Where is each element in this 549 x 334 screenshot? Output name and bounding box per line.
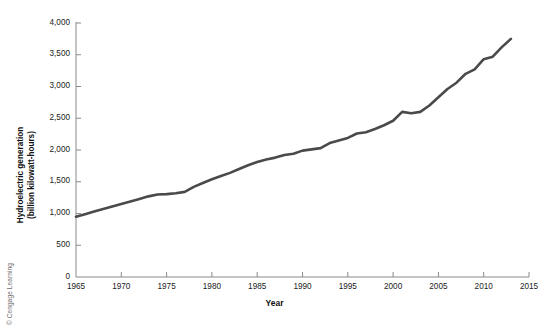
x-tick-label: 1990	[281, 282, 325, 291]
y-tick-label: 500	[20, 240, 70, 249]
x-tick-label: 1965	[54, 282, 98, 291]
y-axis	[76, 22, 81, 277]
y-tick-label: 2,500	[20, 113, 70, 122]
x-axis	[76, 272, 529, 277]
y-tick-label: 1,000	[20, 208, 70, 217]
x-tick-label: 1995	[326, 282, 370, 291]
x-tick-label: 2015	[507, 282, 549, 291]
x-tick-label: 1980	[190, 282, 234, 291]
x-tick-label: 2010	[462, 282, 506, 291]
y-tick-label: 1,500	[20, 176, 70, 185]
x-tick-label: 2005	[416, 282, 460, 291]
y-axis-label: Hydroelectric generation (billion kilowa…	[16, 110, 37, 240]
x-axis-label: Year	[0, 298, 549, 308]
y-tick-label: 2,000	[20, 145, 70, 154]
copyright-credit: © Cengage Learning	[2, 309, 102, 325]
y-tick-label: 0	[20, 272, 70, 281]
x-tick-label: 1970	[99, 282, 143, 291]
x-tick-label: 1985	[235, 282, 279, 291]
y-tick-label: 3,000	[20, 81, 70, 90]
data-series-line	[76, 39, 511, 217]
x-tick-label: 1975	[145, 282, 189, 291]
data-series-group	[76, 39, 511, 217]
x-tick-label: 2000	[371, 282, 415, 291]
y-tick-label: 4,000	[20, 18, 70, 27]
y-tick-label: 3,500	[20, 49, 70, 58]
chart-figure: © Cengage Learning Hydroelectric generat…	[0, 0, 549, 334]
